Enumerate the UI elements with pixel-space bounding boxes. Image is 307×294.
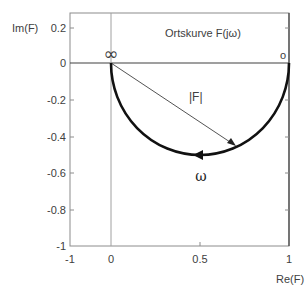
magnitude-label: |F|	[189, 90, 203, 104]
omega-label: ω	[195, 168, 206, 184]
magnitude-vector	[111, 63, 233, 144]
locus-curve	[111, 63, 289, 155]
x-axis-title: Re(F)	[276, 273, 304, 285]
y-tick-label: -0.2	[47, 94, 66, 106]
x-tick-label: 0	[108, 253, 114, 265]
y-tick-label: 0	[60, 57, 66, 69]
y-tick-label: -0.6	[47, 167, 66, 179]
x-tick-label: 0.5	[192, 253, 207, 265]
y-axis-title: Im(F)	[12, 22, 38, 34]
direction-arrow-icon	[193, 150, 203, 160]
y-tick-label: -0.8	[47, 204, 66, 216]
nyquist-plot: 0.2 0 -0.2 -0.4 -0.6 -0.8 -1 -1 0 0.5 1 …	[0, 0, 307, 294]
zero-omega-label: o	[280, 49, 286, 61]
chart-title: Ortskurve F(jω)	[165, 27, 241, 39]
x-tick-label: -1	[65, 253, 75, 265]
x-tick-label: 1	[286, 253, 292, 265]
y-tick-label: 0.2	[51, 22, 66, 34]
infinity-label: ∞	[104, 43, 119, 64]
y-tick-label: -1	[56, 240, 66, 252]
y-tick-label: -0.4	[47, 131, 66, 143]
vector-arrowhead-icon	[227, 138, 236, 146]
